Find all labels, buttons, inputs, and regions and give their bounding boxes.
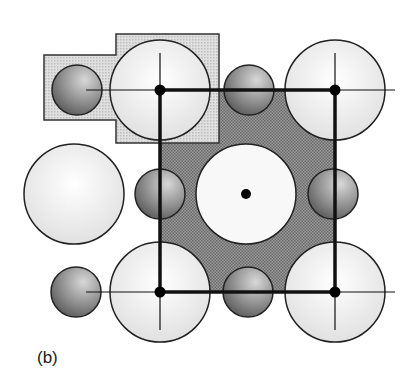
small-sphere [308,169,358,219]
large-sphere [24,144,124,244]
lattice-point [330,287,341,298]
lattice-point [155,287,166,298]
lattice-point [330,85,341,96]
lattice-diagram [0,0,414,385]
lattice-point [155,85,166,96]
figure-label: (b) [37,348,58,368]
lattice-point-center [241,189,251,199]
